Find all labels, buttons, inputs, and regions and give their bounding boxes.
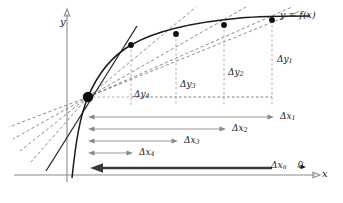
delta-y-4-text: Δy [134,89,146,99]
delta-x-1-arrowhead-left [88,115,95,120]
secant-point-1-dot [269,17,275,23]
secant-extension-2 [13,97,88,139]
limit-arrow-group [90,163,272,173]
delta-x-3-text: Δx [184,135,196,145]
delta-x-2-arrowhead-left [88,127,95,132]
delta-x-2-text: Δx [232,123,244,133]
x-axis-label: x [322,169,328,179]
delta-x-4-text: Δx [139,147,151,157]
delta-x-4-label: Δx4 [139,148,155,158]
figure-canvas [0,0,343,203]
delta-y-2-subscript: 2 [240,70,244,78]
delta-x-4-arrowhead-left [88,151,95,156]
delta-x-2-label: Δx2 [232,124,248,134]
delta-y-1-text: Δy [277,54,289,64]
secant-lines-group [9,7,300,162]
secant-point-2-dot [221,22,227,28]
limit-target-value: 0 [298,160,304,170]
delta-y-2-text: Δy [228,67,240,77]
delta-y-1-subscript: 1 [289,57,293,65]
delta-x-2-subscript: 2 [244,126,248,134]
delta-x-arrows-group [88,115,274,156]
secant-point-3-dot [173,31,179,37]
delta-x-3-label: Δx3 [184,136,200,146]
axes-group [14,9,320,182]
delta-x-3-arrowhead-left [88,139,95,144]
delta-x-1-arrowhead-right [268,115,275,120]
delta-y-4-label: Δy4 [134,90,150,100]
delta-x-4-subscript: 4 [151,150,155,158]
y-axis-label: y [60,17,66,27]
delta-y-1-label: Δy1 [277,55,293,65]
base-point-dot [83,92,93,102]
delta-y-3-text: Δy [180,79,192,89]
secant-extension-4 [31,97,88,162]
secant-extension-3 [20,97,88,151]
delta-x-3-arrowhead-right [172,139,179,144]
limit-delta-text: Δx [271,160,283,170]
limit-statement-label: Δxn0 [271,161,304,171]
derivative-limit-figure: y x y = f(x) Δy1 Δy2 Δy3 Δy4 Δx1 Δx2 Δx3… [0,0,343,203]
limit-arrow-head [90,163,103,173]
delta-y-4-subscript: 4 [146,92,150,100]
delta-x-3-subscript: 3 [196,138,200,146]
delta-y-2-label: Δy2 [228,68,244,78]
secant-point-4-dot [128,42,134,48]
delta-x-2-arrowhead-right [220,127,227,132]
delta-x-1-label: Δx1 [280,112,296,122]
delta-x-1-subscript: 1 [292,114,296,122]
limit-delta-subscript: n [283,163,287,171]
delta-y-3-subscript: 3 [192,82,196,90]
function-label: y = f(x) [280,10,316,20]
delta-x-1-text: Δx [280,111,292,121]
delta-x-4-arrowhead-right [127,151,134,156]
delta-y-3-label: Δy3 [180,80,196,90]
